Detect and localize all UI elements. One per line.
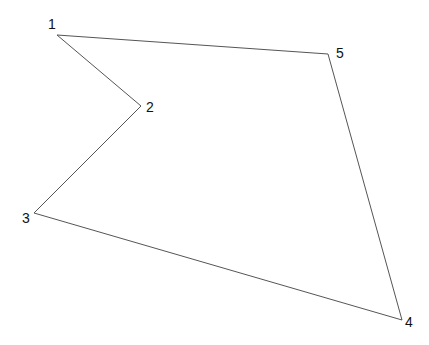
polygon-diagram: 12345 [0,0,429,345]
edge-1-2 [57,35,141,106]
edge-2-3 [34,106,141,213]
vertex-label-1: 1 [48,16,56,32]
edge-4-5 [328,54,402,320]
polygon-edges [34,35,402,320]
vertex-label-3: 3 [22,210,30,226]
edge-3-4 [34,213,402,320]
vertex-label-2: 2 [146,99,154,115]
edge-5-1 [57,35,328,54]
vertex-label-5: 5 [336,45,344,61]
vertex-label-4: 4 [405,314,413,330]
vertex-labels: 12345 [22,16,413,330]
